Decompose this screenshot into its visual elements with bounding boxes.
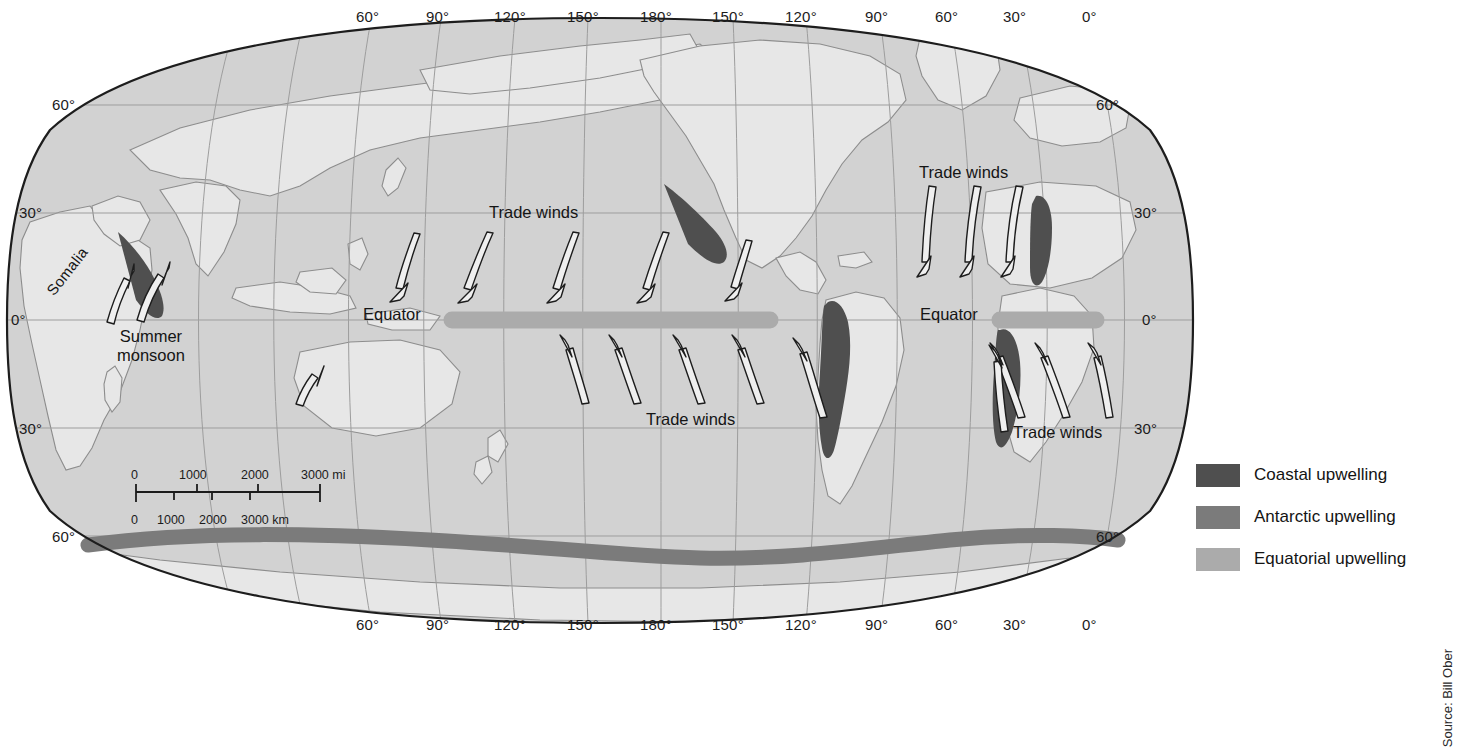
lon-bottom-label: 150°: [567, 616, 599, 633]
lat-left-label: 60°: [52, 96, 75, 113]
legend-swatch-coastal: [1196, 464, 1240, 487]
legend-swatch-antarctic: [1196, 506, 1240, 529]
lat-right-label: 60°: [1096, 528, 1119, 545]
summer-monsoon-line2: monsoon: [117, 346, 185, 365]
trade-winds-label-south-pacific: Trade winds: [646, 410, 735, 429]
lon-top-label: 90°: [426, 8, 449, 25]
scale-mi-tick: 1000: [179, 468, 207, 482]
scale-mi-tick: 0: [131, 468, 138, 482]
legend-item-equatorial-upwelling: Equatorial upwelling: [1196, 542, 1436, 576]
trade-winds-label-north-pacific: Trade winds: [489, 203, 578, 222]
lat-right-label: 0°: [1142, 311, 1157, 328]
lat-left-label: 30°: [19, 204, 42, 221]
lon-top-label: 0°: [1082, 8, 1097, 25]
scale-mi-tick: 3000 mi: [301, 468, 345, 482]
lat-left-label: 60°: [52, 528, 75, 545]
lon-bottom-label: 30°: [1003, 616, 1026, 633]
lon-top-label: 90°: [865, 8, 888, 25]
equator-label-pacific: Equator: [363, 305, 421, 324]
lat-right-label: 30°: [1134, 420, 1157, 437]
legend-label-antarctic: Antarctic upwelling: [1254, 507, 1396, 527]
lon-bottom-label: 60°: [935, 616, 958, 633]
lon-bottom-label: 0°: [1082, 616, 1097, 633]
legend-item-coastal-upwelling: Coastal upwelling: [1196, 458, 1436, 492]
lat-right-label: 60°: [1096, 96, 1119, 113]
lon-bottom-label: 60°: [356, 616, 379, 633]
lon-top-label: 150°: [712, 8, 744, 25]
legend-label-equatorial: Equatorial upwelling: [1254, 549, 1406, 569]
source-credit: Source: Bill Ober: [1440, 649, 1455, 747]
equator-label-atlantic: Equator: [920, 305, 978, 324]
lon-bottom-label: 90°: [865, 616, 888, 633]
lon-top-label: 60°: [356, 8, 379, 25]
summer-monsoon-label: Summer monsoon: [117, 327, 185, 365]
summer-monsoon-line1: Summer: [117, 327, 185, 346]
scale-mi-tick: 2000: [241, 468, 269, 482]
lon-top-label: 120°: [494, 8, 526, 25]
lon-bottom-label: 180°: [640, 616, 672, 633]
lon-bottom-label: 150°: [712, 616, 744, 633]
legend-label-coastal: Coastal upwelling: [1254, 465, 1387, 485]
lon-top-label: 180°: [640, 8, 672, 25]
legend: Coastal upwelling Antarctic upwelling Eq…: [1196, 458, 1436, 584]
legend-swatch-equatorial: [1196, 548, 1240, 571]
lat-left-label: 0°: [11, 311, 26, 328]
lon-bottom-label: 120°: [494, 616, 526, 633]
scale-km-tick: 3000 km: [241, 513, 289, 527]
lon-top-label: 60°: [935, 8, 958, 25]
lon-top-label: 30°: [1003, 8, 1026, 25]
lat-left-label: 30°: [19, 420, 42, 437]
scale-km-tick: 0: [131, 513, 138, 527]
lon-top-label: 120°: [785, 8, 817, 25]
lon-bottom-label: 90°: [426, 616, 449, 633]
lon-top-label: 150°: [567, 8, 599, 25]
scale-km-tick: 1000: [157, 513, 185, 527]
lon-bottom-label: 120°: [785, 616, 817, 633]
trade-winds-label-north-atlantic: Trade winds: [919, 163, 1008, 182]
scale-km-tick: 2000: [199, 513, 227, 527]
scale-bar: 0 1000 2000 3000 mi 0 1000 2000 3000 km: [133, 468, 383, 530]
trade-winds-label-south-atlantic: Trade winds: [1013, 423, 1102, 442]
lat-right-label: 30°: [1134, 204, 1157, 221]
world-map: 60° 90° 120° 150° 180° 150° 120° 90° 60°…: [0, 0, 1200, 653]
legend-item-antarctic-upwelling: Antarctic upwelling: [1196, 500, 1436, 534]
